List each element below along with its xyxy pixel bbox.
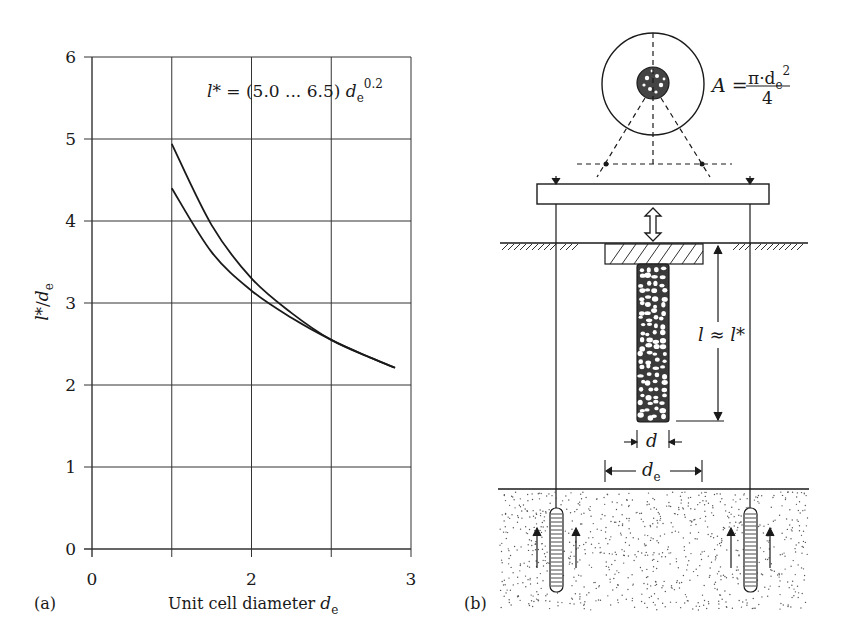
chart-grid xyxy=(84,57,411,557)
panel-label-a: (a) xyxy=(34,594,56,613)
footing-hatch xyxy=(610,244,703,264)
double-arrow-icon xyxy=(645,208,661,241)
load-arrows xyxy=(552,176,754,184)
uplift-arrows xyxy=(533,528,774,568)
projection-dashed-lines xyxy=(577,33,732,177)
de-label: de xyxy=(642,459,661,484)
ground-hatch-right xyxy=(733,244,803,250)
area-formula: A = xyxy=(710,74,748,96)
chart-panel-a: 0123456 023 l* = (5.0 ... 6.5) de0.2 l*/… xyxy=(32,47,416,617)
y-axis-label: l*/de xyxy=(32,283,56,321)
y-tick-label: 1 xyxy=(65,457,76,477)
footing xyxy=(605,244,703,264)
chart-curves xyxy=(172,144,395,368)
anchor-left xyxy=(550,508,563,592)
panel-label-b: (b) xyxy=(464,594,487,613)
x-tick-labels: 023 xyxy=(87,569,417,589)
curve-upper xyxy=(172,144,395,368)
diagram-panel-b: A = π·de2 4 xyxy=(464,33,809,613)
projection-dot xyxy=(604,162,609,167)
y-tick-labels: 0123456 xyxy=(65,47,76,559)
length-label: l ≈ l* xyxy=(698,324,745,345)
y-tick-label: 0 xyxy=(65,539,76,559)
y-tick-label: 5 xyxy=(65,129,76,149)
y-tick-label: 4 xyxy=(65,211,76,231)
ground-hatch-left xyxy=(502,244,578,250)
x-axis-label: Unit cell diameter de xyxy=(168,593,338,617)
d-label: d xyxy=(646,430,658,451)
projection-dot xyxy=(700,162,705,167)
y-tick-label: 6 xyxy=(65,47,76,67)
x-tick-label: 3 xyxy=(406,569,417,589)
figure: 0123456 023 l* = (5.0 ... 6.5) de0.2 l*/… xyxy=(0,0,847,644)
sand-stipple xyxy=(499,491,808,610)
x-tick-label: 0 xyxy=(87,569,98,589)
y-tick-label: 3 xyxy=(65,293,76,313)
y-tick-label: 2 xyxy=(65,375,76,395)
load-plate xyxy=(537,184,769,204)
chart-formula: l* = (5.0 ... 6.5) de0.2 xyxy=(207,77,383,105)
x-tick-label: 2 xyxy=(246,569,257,589)
anchor-right xyxy=(744,508,757,592)
area-formula-denominator: 4 xyxy=(762,88,773,108)
